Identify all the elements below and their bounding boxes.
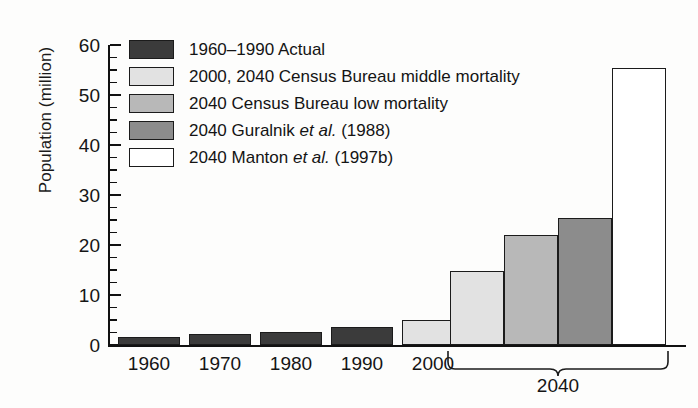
legend-label: 2040 Guralnik et al. (1988)	[189, 122, 390, 139]
legend-label: 1960–1990 Actual	[189, 41, 325, 58]
y-tick-major	[110, 294, 121, 296]
legend-label: 2040 Manton et al. (1997b)	[189, 149, 393, 166]
y-tick-major	[110, 244, 121, 246]
legend-label: 2000, 2040 Census Bureau middle mortalit…	[189, 68, 520, 85]
y-tick-minor	[110, 132, 117, 134]
chart-legend: 1960–1990 Actual2000, 2040 Census Bureau…	[129, 36, 520, 171]
bar-2040-8[interactable]	[612, 68, 666, 346]
y-tick-label: 10	[79, 286, 100, 305]
y-tick-minor	[110, 319, 117, 321]
y-tick-major	[110, 94, 121, 96]
y-tick-major	[110, 194, 121, 196]
legend-item-3[interactable]: 2040 Guralnik et al. (1988)	[129, 117, 520, 143]
y-tick-minor	[110, 69, 117, 71]
bar-1990-3[interactable]	[331, 327, 393, 346]
y-tick-label: 20	[79, 236, 100, 255]
y-tick-minor	[110, 207, 117, 209]
y-tick-label: 40	[79, 136, 100, 155]
y-tick-minor	[110, 169, 117, 171]
legend-swatch-icon	[129, 94, 174, 113]
y-tick-minor	[110, 307, 117, 309]
bar-2040-6[interactable]	[504, 235, 558, 345]
y-tick-label: 30	[79, 186, 100, 205]
chart-figure: Population (million) 0102030405060 19601…	[0, 0, 698, 408]
bar-2040-5[interactable]	[450, 271, 504, 345]
year-bracket-icon	[108, 347, 686, 377]
legend-item-1[interactable]: 2000, 2040 Census Bureau middle mortalit…	[129, 63, 520, 89]
bar-1960-0[interactable]	[118, 337, 180, 345]
bar-2040-7[interactable]	[558, 218, 612, 346]
legend-item-2[interactable]: 2040 Census Bureau low mortality	[129, 90, 520, 116]
y-tick-minor	[110, 282, 117, 284]
y-tick-minor	[110, 182, 117, 184]
legend-item-4[interactable]: 2040 Manton et al. (1997b)	[129, 144, 520, 170]
y-tick-minor	[110, 232, 117, 234]
y-tick-minor	[110, 119, 117, 121]
legend-swatch-icon	[129, 121, 174, 140]
y-tick-minor	[110, 57, 117, 59]
bar-1980-2[interactable]	[260, 332, 322, 346]
y-tick-minor	[110, 107, 117, 109]
y-tick-label: 0	[89, 336, 100, 355]
y-tick-minor	[110, 219, 117, 221]
y-tick-minor	[110, 257, 117, 259]
y-tick-minor	[110, 82, 117, 84]
y-tick-minor	[110, 332, 117, 334]
y-tick-major	[110, 144, 121, 146]
y-tick-minor	[110, 157, 117, 159]
bracket-label: 2040	[537, 375, 579, 397]
bar-1970-1[interactable]	[189, 334, 251, 345]
legend-swatch-icon	[129, 148, 174, 167]
y-tick-label: 60	[79, 36, 100, 55]
legend-item-0[interactable]: 1960–1990 Actual	[129, 36, 520, 62]
y-tick-major	[110, 44, 121, 46]
y-axis-title: Population (million)	[36, 0, 56, 250]
y-tick-label: 50	[79, 86, 100, 105]
y-tick-minor	[110, 269, 117, 271]
legend-swatch-icon	[129, 40, 174, 59]
legend-swatch-icon	[129, 67, 174, 86]
legend-label: 2040 Census Bureau low mortality	[189, 95, 448, 112]
